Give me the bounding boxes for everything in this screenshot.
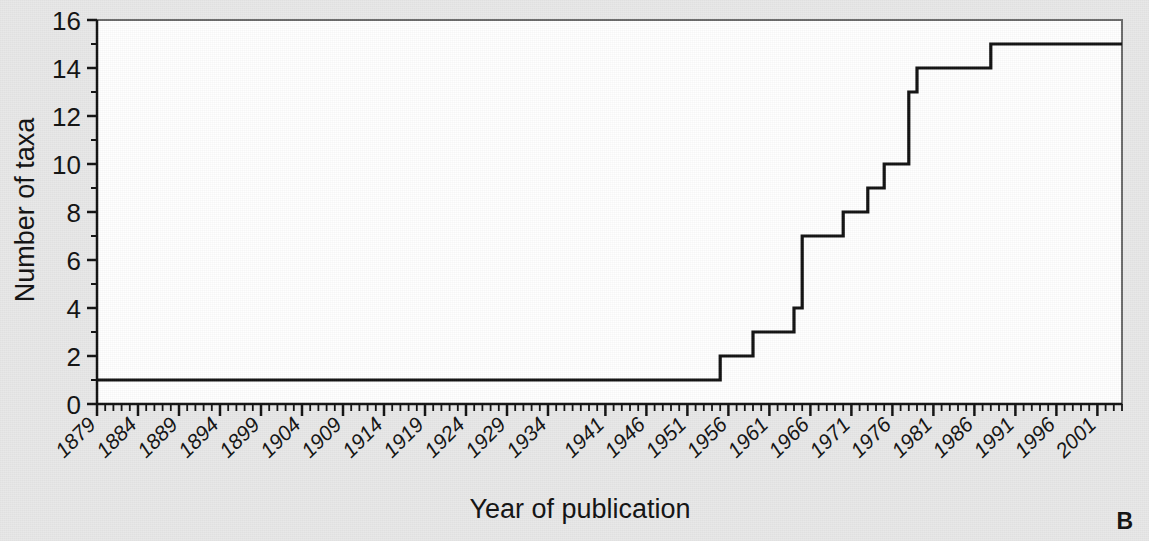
x-tick-label: 1919	[379, 412, 429, 462]
x-tick-label: 1956	[682, 412, 732, 462]
plot-area	[97, 20, 1122, 404]
y-tick-label: 16	[52, 6, 81, 36]
x-tick-label: 1909	[297, 412, 347, 462]
x-tick-label: 1894	[174, 413, 223, 462]
cumulative-taxa-line-chart: 0246810121416 18791884188918941899190419…	[0, 0, 1149, 541]
x-tick-label: 1971	[805, 413, 854, 462]
figure-panel: 0246810121416 18791884188918941899190419…	[0, 0, 1149, 541]
x-tick-label: 1991	[969, 413, 1018, 462]
x-tick-label: 1914	[338, 413, 387, 462]
x-axis-title: Year of publication	[430, 494, 730, 525]
x-tick-label: 1934	[502, 413, 551, 462]
x-tick-label: 1889	[133, 412, 183, 462]
y-tick-label: 2	[67, 342, 81, 372]
x-tick-label: 1961	[723, 413, 772, 462]
x-tick-label: 2001	[1050, 413, 1100, 463]
x-tick-label: 1996	[1010, 412, 1060, 462]
y-axis-title: Number of taxa	[8, 0, 42, 420]
x-tick-label: 1946	[600, 412, 650, 462]
x-tick-label: 1986	[928, 412, 978, 462]
x-tick-label: 1924	[420, 413, 469, 462]
x-axis-tick-labels: 1879188418891894189919041909191419191924…	[51, 412, 1101, 462]
x-tick-label: 1899	[215, 412, 265, 462]
y-tick-label: 10	[52, 150, 81, 180]
y-tick-label: 14	[52, 54, 81, 84]
x-axis-ticks	[97, 404, 1122, 416]
y-tick-label: 12	[52, 102, 81, 132]
x-tick-label: 1981	[887, 413, 936, 462]
x-tick-label: 1976	[846, 412, 896, 462]
x-tick-label: 1966	[764, 412, 814, 462]
x-tick-label: 1879	[51, 412, 101, 462]
y-axis-ticks	[87, 20, 97, 404]
x-tick-label: 1884	[92, 413, 141, 462]
y-tick-label: 4	[67, 294, 81, 324]
y-tick-label: 8	[67, 198, 81, 228]
x-tick-label: 1929	[461, 412, 511, 462]
y-axis-tick-labels: 0246810121416	[52, 6, 81, 420]
y-tick-label: 0	[67, 390, 81, 420]
x-tick-label: 1951	[641, 413, 690, 462]
x-tick-label: 1941	[559, 413, 608, 462]
x-tick-label: 1904	[256, 413, 305, 462]
y-tick-label: 6	[67, 246, 81, 276]
panel-label: B	[1116, 508, 1133, 535]
